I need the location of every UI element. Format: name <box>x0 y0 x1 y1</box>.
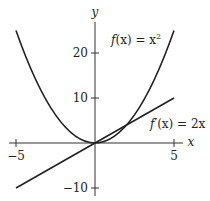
y-tick-label-10: 10 <box>73 91 88 105</box>
derivative-label: f′(x) = 2x <box>149 117 206 131</box>
y-tick-label-20: 20 <box>73 46 88 60</box>
function-plot: 20 10 −10 −5 5 y x f(x) = x2 f′(x) = 2x <box>0 0 210 201</box>
y-axis-label: y <box>91 5 99 19</box>
y-tick-label-neg10: −10 <box>63 181 88 195</box>
x-tick-label-5: 5 <box>170 149 178 163</box>
x-axis-label: x <box>188 135 195 149</box>
x-tick-label-neg5: −5 <box>7 149 25 163</box>
parabola-label: f(x) = x2 <box>110 32 161 47</box>
